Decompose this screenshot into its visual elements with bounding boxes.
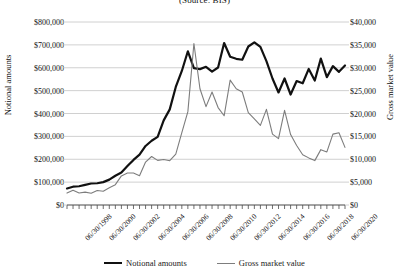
legend-item-notional-amounts: Notional amounts	[104, 258, 187, 268]
series-line-notional-amounts	[67, 42, 345, 188]
plot-area	[0, 0, 409, 279]
legend-label-notional: Notional amounts	[126, 258, 187, 268]
gridlines	[67, 22, 345, 205]
legend-line-swatch-gross-icon	[217, 263, 235, 264]
chart-legend: Notional amounts Gross market value	[0, 258, 409, 268]
legend-line-swatch-notional-icon	[104, 262, 122, 264]
legend-item-gross-market-value: Gross market value	[217, 258, 305, 268]
legend-label-gross: Gross market value	[239, 258, 305, 268]
chart-container: (Source: BIS) Notional amounts Gross mar…	[0, 0, 409, 279]
data-series	[67, 42, 345, 193]
